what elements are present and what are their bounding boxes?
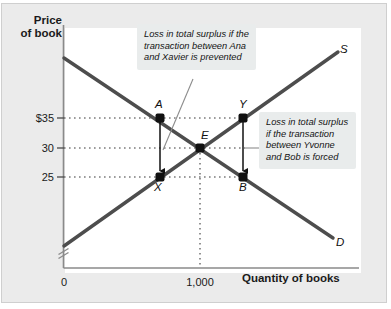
data-point-B	[239, 173, 248, 182]
data-point-Y	[239, 114, 248, 123]
price-gridlines	[64, 118, 245, 177]
data-point-E	[196, 144, 205, 153]
data-point-A	[156, 114, 165, 123]
data-point-X	[156, 173, 165, 182]
chart-vector-overlay	[0, 0, 391, 309]
figure-container: Price of book Quantity of books $35 30 2…	[0, 0, 391, 309]
